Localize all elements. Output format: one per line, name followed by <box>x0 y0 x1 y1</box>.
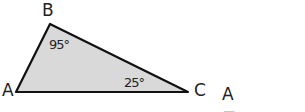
angle-c-label: 25° <box>124 76 144 89</box>
answer-line: A = <box>222 84 305 112</box>
vertex-label-a: A <box>2 82 14 99</box>
vertex-label-b: B <box>42 2 54 19</box>
triangle-diagram: B A C 95° 25° A = <box>0 0 305 112</box>
answer-prefix: A = <box>222 84 252 112</box>
angle-b-label: 95° <box>49 38 69 51</box>
vertex-label-c: C <box>194 82 206 99</box>
answer-blank[interactable] <box>254 109 305 112</box>
